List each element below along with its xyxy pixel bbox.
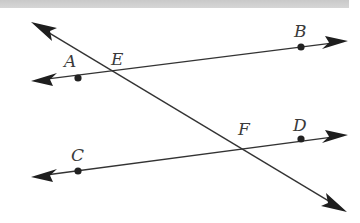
transversal-diagram: A E B C F D	[0, 0, 360, 223]
arrowhead-right-icon	[322, 36, 348, 49]
label-d: D	[292, 115, 307, 135]
arrowhead-left-icon	[31, 169, 57, 182]
label-f: F	[237, 119, 251, 139]
arrowhead-left-icon	[31, 73, 57, 86]
label-a: A	[62, 51, 76, 71]
point-b-dot	[297, 43, 304, 50]
point-c-dot	[74, 167, 81, 174]
label-c: C	[71, 145, 84, 165]
label-e: E	[110, 49, 124, 69]
arrowhead-right-icon	[322, 130, 348, 143]
arrowhead-down-right-icon	[321, 193, 347, 212]
label-b: B	[293, 21, 307, 41]
arrowhead-up-left-icon	[31, 22, 57, 41]
point-d-dot	[297, 135, 304, 142]
point-a-dot	[74, 74, 81, 81]
